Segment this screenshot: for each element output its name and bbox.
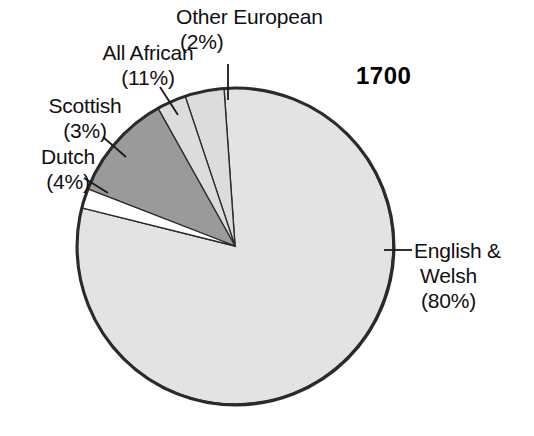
slice-label-all-african-name: All African — [102, 41, 193, 64]
slice-label-all-african-percent: (11%) — [78, 65, 218, 90]
pie-chart-figure: 1700 Other European (2%) All African (11… — [0, 0, 534, 436]
slice-label-english-welsh: English & Welsh (80%) — [414, 238, 501, 313]
slice-label-english-welsh-percent: (80%) — [414, 288, 501, 313]
slice-label-other-european-name: Other European — [176, 5, 323, 28]
slice-label-all-african: All African (11%) — [78, 40, 218, 90]
slice-label-english-welsh-name-line1: English & — [414, 239, 501, 262]
slice-label-english-welsh-name-line2: Welsh — [414, 263, 501, 288]
slice-label-scottish-percent: (3%) — [24, 118, 146, 143]
slice-label-dutch: Dutch (4%) — [10, 144, 126, 194]
slice-label-scottish-name: Scottish — [48, 94, 121, 117]
slice-label-scottish: Scottish (3%) — [24, 93, 146, 143]
slice-label-dutch-name: Dutch — [41, 145, 95, 168]
chart-year-title: 1700 — [356, 62, 411, 90]
slice-label-dutch-percent: (4%) — [10, 169, 126, 194]
